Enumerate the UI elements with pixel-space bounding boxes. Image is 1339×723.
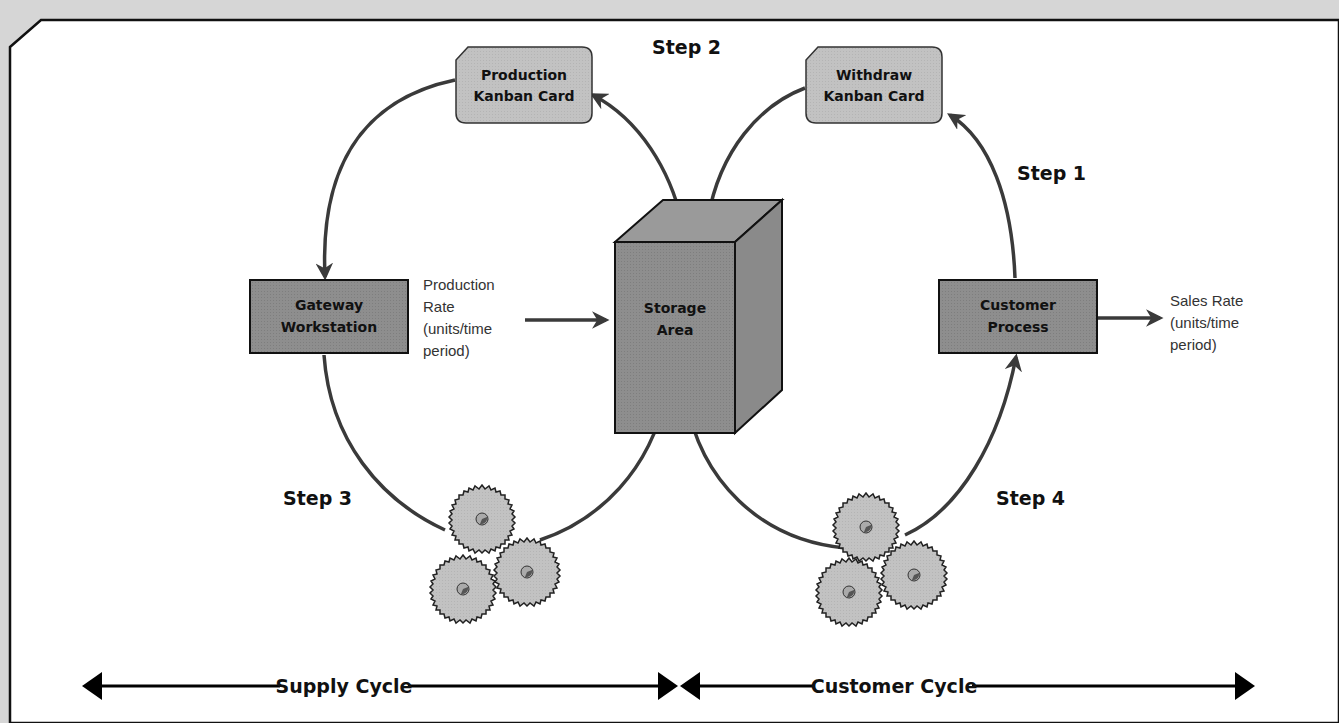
- gateway-workstation-box: Gateway Workstation: [250, 280, 408, 353]
- svg-text:(units/time: (units/time: [423, 320, 492, 337]
- step-3-label: Step 3: [283, 487, 352, 509]
- storage-line1: Storage: [644, 300, 706, 316]
- customer-cycle-label: Customer Cycle: [811, 675, 978, 697]
- production-card-line1: Production: [481, 67, 567, 83]
- svg-text:Sales Rate: Sales Rate: [1170, 292, 1243, 309]
- production-card-line2: Kanban Card: [473, 88, 574, 104]
- svg-text:Rate: Rate: [423, 298, 455, 315]
- withdraw-card-line1: Withdraw: [836, 67, 912, 83]
- storage-area-cube: Storage Area: [615, 200, 782, 433]
- step-4-label: Step 4: [996, 487, 1065, 509]
- customer-line2: Process: [987, 319, 1048, 335]
- customer-line1: Customer: [980, 297, 1056, 313]
- gateway-line2: Workstation: [281, 319, 377, 335]
- svg-text:(units/time: (units/time: [1170, 314, 1239, 331]
- withdraw-card-line2: Kanban Card: [823, 88, 924, 104]
- svg-text:Production: Production: [423, 276, 495, 293]
- withdraw-kanban-card: Withdraw Kanban Card: [806, 47, 942, 123]
- svg-text:period): period): [1170, 336, 1217, 353]
- production-kanban-card: Production Kanban Card: [456, 47, 592, 123]
- supply-cycle-label: Supply Cycle: [276, 675, 413, 697]
- customer-process-box: Customer Process: [939, 280, 1097, 353]
- step-1-label: Step 1: [1017, 162, 1086, 184]
- kanban-diagram: Production Kanban Card Withdraw Kanban C…: [0, 0, 1339, 723]
- storage-line2: Area: [657, 322, 694, 338]
- gateway-line1: Gateway: [295, 297, 363, 313]
- svg-text:period): period): [423, 342, 470, 359]
- step-2-label: Step 2: [652, 36, 721, 58]
